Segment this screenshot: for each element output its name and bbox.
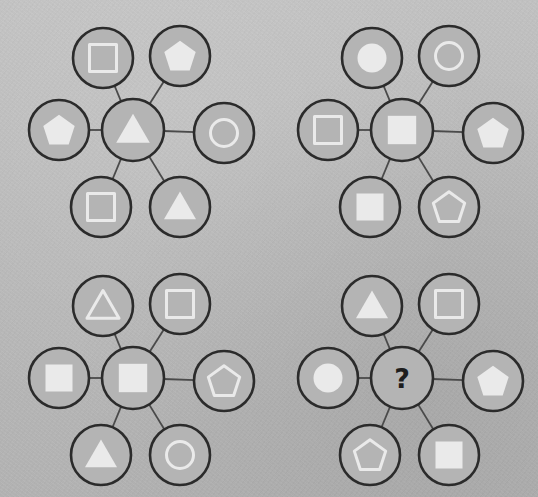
edge-center-to-right bbox=[432, 379, 464, 380]
leaf-node-left[interactable] bbox=[298, 348, 358, 408]
edge-center-to-bottom-right bbox=[149, 404, 165, 431]
panel-top-left-graph bbox=[0, 0, 269, 248]
edge-center-to-bottom-left bbox=[112, 158, 121, 181]
edge-center-to-top-right bbox=[149, 80, 164, 104]
leaf-node-left[interactable] bbox=[298, 100, 358, 160]
leaf-node-top-left[interactable] bbox=[73, 28, 133, 88]
square-filled-glyph bbox=[46, 365, 73, 392]
center-node[interactable] bbox=[102, 347, 164, 409]
panel-bottom-right-graph: ? bbox=[269, 248, 538, 496]
leaf-node-top-left[interactable] bbox=[342, 276, 402, 336]
leaf-node-left[interactable] bbox=[29, 100, 89, 160]
circle-filled-glyph bbox=[314, 364, 343, 393]
leaf-node-top-right[interactable] bbox=[419, 26, 479, 86]
node-circle bbox=[150, 425, 210, 485]
edge-center-to-top-right bbox=[418, 328, 433, 352]
center-node[interactable] bbox=[102, 99, 164, 161]
panel-top-right[interactable] bbox=[269, 0, 538, 248]
edge-center-to-bottom-right bbox=[418, 156, 434, 183]
question-mark-label: ? bbox=[394, 363, 410, 394]
leaf-node-bottom-right[interactable] bbox=[419, 177, 479, 237]
edge-center-to-top-left bbox=[114, 333, 121, 351]
leaf-node-bottom-left[interactable] bbox=[340, 425, 400, 485]
edge-center-to-bottom-left bbox=[381, 406, 390, 429]
edge-center-to-bottom-left bbox=[381, 158, 390, 181]
center-node[interactable] bbox=[371, 99, 433, 161]
center-node[interactable]: ? bbox=[371, 347, 433, 409]
leaf-node-top-right[interactable] bbox=[419, 274, 479, 334]
edge-center-to-top-left bbox=[383, 85, 390, 103]
leaf-node-top-right[interactable] bbox=[150, 274, 210, 334]
leaf-node-right[interactable] bbox=[194, 351, 254, 411]
panel-bottom-right[interactable]: ? bbox=[269, 248, 538, 496]
edge-center-to-right bbox=[163, 379, 195, 380]
node-circle bbox=[419, 177, 479, 237]
leaf-node-left[interactable] bbox=[29, 348, 89, 408]
square-filled-glyph bbox=[357, 194, 384, 221]
square-filled-glyph bbox=[119, 364, 147, 392]
square-filled-glyph bbox=[436, 442, 463, 469]
panel-bottom-left[interactable] bbox=[0, 248, 269, 496]
leaf-node-top-left[interactable] bbox=[73, 276, 133, 336]
node-circle bbox=[73, 28, 133, 88]
node-circle bbox=[150, 274, 210, 334]
leaf-node-bottom-left[interactable] bbox=[71, 177, 131, 237]
square-filled-glyph bbox=[388, 116, 416, 144]
leaf-node-top-left[interactable] bbox=[342, 28, 402, 88]
leaf-node-right[interactable] bbox=[194, 103, 254, 163]
puzzle-canvas: ? bbox=[0, 0, 538, 497]
node-circle bbox=[419, 26, 479, 86]
edge-center-to-right bbox=[163, 131, 195, 132]
leaf-node-right[interactable] bbox=[463, 103, 523, 163]
leaf-node-top-right[interactable] bbox=[150, 26, 210, 86]
node-circle bbox=[73, 276, 133, 336]
leaf-node-bottom-right[interactable] bbox=[419, 425, 479, 485]
edge-center-to-bottom-right bbox=[418, 404, 434, 431]
node-circle bbox=[71, 177, 131, 237]
node-circle bbox=[340, 425, 400, 485]
edge-center-to-bottom-right bbox=[149, 156, 165, 183]
edge-center-to-bottom-left bbox=[112, 406, 121, 429]
node-circle bbox=[194, 351, 254, 411]
leaf-node-bottom-right[interactable] bbox=[150, 177, 210, 237]
leaf-node-bottom-left[interactable] bbox=[340, 177, 400, 237]
circle-filled-glyph bbox=[358, 44, 387, 73]
node-circle bbox=[419, 274, 479, 334]
edge-center-to-top-right bbox=[149, 328, 164, 352]
leaf-node-bottom-right[interactable] bbox=[150, 425, 210, 485]
edge-center-to-top-left bbox=[114, 85, 121, 103]
node-circle bbox=[194, 103, 254, 163]
panel-top-left[interactable] bbox=[0, 0, 269, 248]
panel-bottom-left-graph bbox=[0, 248, 269, 496]
edge-center-to-right bbox=[432, 131, 464, 132]
leaf-node-bottom-left[interactable] bbox=[71, 425, 131, 485]
edge-center-to-top-left bbox=[383, 333, 390, 351]
edge-center-to-top-right bbox=[418, 80, 433, 104]
panel-top-right-graph bbox=[269, 0, 538, 248]
leaf-node-right[interactable] bbox=[463, 351, 523, 411]
node-circle bbox=[298, 100, 358, 160]
